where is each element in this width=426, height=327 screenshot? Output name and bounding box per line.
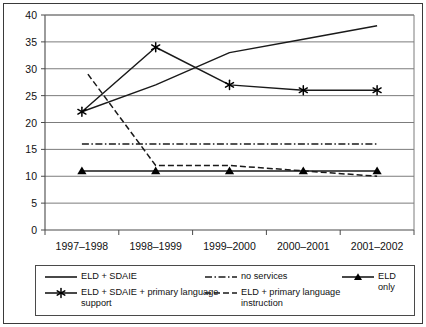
- y-tick-label: 15: [25, 143, 37, 155]
- series-line: [88, 74, 377, 176]
- y-tick-label: 10: [25, 170, 37, 182]
- legend-label-eld-sdaie: ELD + SDAIE: [81, 271, 137, 282]
- y-tick-label: 20: [25, 117, 37, 129]
- x-tick-label: 1998–1999: [129, 240, 182, 252]
- chart-legend: ELD + SDAIE ELD + SDAIE + primary langua…: [35, 265, 415, 316]
- legend-item-eld-only: ELD only: [341, 271, 414, 293]
- legend-item-eld-sdaie-primary: ELD + SDAIE + primary language support: [44, 287, 221, 309]
- chart-figure: 0510152025303540 1997–19981998–19991999–…: [0, 0, 426, 327]
- series-line: [82, 47, 377, 112]
- y-tick-label: 40: [25, 9, 37, 21]
- line-chart-svg: 0510152025303540 1997–19981998–19991999–…: [0, 0, 426, 250]
- x-axis-tick-labels: 1997–19981998–19991999–20002000–20012001…: [56, 240, 404, 252]
- legend-swatch-eld-only: [341, 271, 375, 282]
- y-tick-label: 35: [25, 36, 37, 48]
- series-eld-sdaie-primary-language-support: [78, 43, 381, 117]
- series-eld-only: [77, 166, 381, 174]
- x-axis-tick-marks: [45, 230, 414, 235]
- legend-swatch-no-services: [204, 271, 238, 282]
- legend-label-no-services: no services: [241, 271, 287, 282]
- data-series-layer: [77, 26, 381, 177]
- x-tick-label: 2001–2002: [351, 240, 404, 252]
- series-eld-primary-language-instruction: [88, 74, 377, 176]
- plot-area: 0510152025303540 1997–19981998–19991999–…: [0, 0, 426, 250]
- y-tick-label: 5: [31, 197, 37, 209]
- legend-swatch-eld-sdaie: [44, 271, 78, 282]
- y-tick-label: 0: [31, 224, 37, 236]
- y-tick-label: 30: [25, 63, 37, 75]
- legend-item-no-services: no services: [204, 271, 287, 282]
- x-tick-label: 1999–2000: [203, 240, 256, 252]
- legend-swatch-eld-sdaie-primary: [44, 287, 78, 298]
- y-tick-label: 25: [25, 90, 37, 102]
- legend-swatch-eld-primary-instruction: [204, 287, 238, 298]
- legend-label-eld-only: ELD only: [378, 271, 414, 293]
- legend-item-eld-sdaie: ELD + SDAIE: [44, 271, 137, 282]
- x-tick-label: 1997–1998: [56, 240, 109, 252]
- legend-label-eld-sdaie-primary: ELD + SDAIE + primary language support: [81, 287, 221, 309]
- x-tick-label: 2000–2001: [277, 240, 330, 252]
- y-axis-tick-marks: [41, 15, 45, 230]
- y-axis-tick-labels: 0510152025303540: [25, 9, 37, 236]
